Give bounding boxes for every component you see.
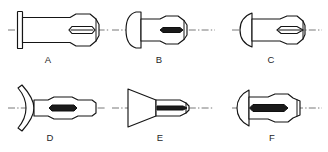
part-f-half-round-head: [237, 90, 249, 126]
part-b-dome-head: [126, 12, 141, 48]
part-d-flared-head: [18, 85, 34, 131]
part-f-label: F: [269, 132, 275, 143]
part-e-slot: [157, 106, 187, 110]
part-b-label: B: [156, 54, 163, 65]
part-b-drawing[interactable]: B: [112, 12, 215, 65]
part-a-label: A: [45, 54, 52, 65]
part-a-flange-head: [18, 12, 23, 49]
part-e-drawing[interactable]: E: [112, 89, 214, 143]
part-f-slot: [250, 105, 289, 112]
part-b-slot: [160, 28, 183, 33]
part-e-label: E: [157, 132, 164, 143]
part-d-drawing[interactable]: D: [8, 85, 106, 143]
part-c-label: C: [267, 54, 274, 65]
part-d-label: D: [46, 132, 53, 143]
figure-sheet: A B C D E: [0, 0, 328, 152]
part-d-slot: [49, 105, 77, 111]
part-a-drawing[interactable]: A: [8, 12, 110, 66]
part-f-drawing[interactable]: F: [232, 90, 322, 143]
technical-drawing-canvas: A B C D E: [0, 0, 328, 152]
part-e-conical-head: [128, 89, 156, 127]
part-c-drawing[interactable]: C: [232, 13, 322, 65]
part-c-half-round-head: [240, 13, 252, 47]
